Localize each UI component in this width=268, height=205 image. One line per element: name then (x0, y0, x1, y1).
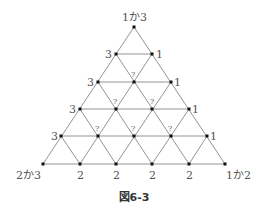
bottom-edge-label: 2 (113, 170, 120, 181)
bottom-left-label: 2か3 (16, 170, 41, 181)
left-edge-label: 3 (69, 104, 76, 115)
bottom-edge-label: 2 (186, 170, 193, 181)
lattice-nodes (42, 26, 227, 166)
right-edge-label: 1 (174, 77, 181, 88)
right-edge-label: 1 (210, 131, 217, 142)
apex-label: 1か3 (122, 12, 147, 23)
interior-unknown-label: ? (168, 125, 172, 133)
interior-unknown-label: ? (131, 71, 135, 79)
triangle-diagram: 1か3 2か3 1か2 3 3 3 3 1 1 1 1 2 2 2 2 ? ? … (0, 0, 268, 205)
left-edge-label: 3 (105, 49, 112, 60)
right-edge-label: 1 (192, 104, 199, 115)
bottom-right-label: 1か2 (226, 170, 251, 181)
interior-unknown-label: ? (150, 98, 154, 106)
left-edge-label: 3 (87, 77, 94, 88)
interior-unknown-label: ? (131, 125, 135, 133)
bottom-edge-label: 2 (77, 170, 84, 181)
figure-caption: 図6-3 (0, 188, 268, 204)
right-edge-label: 1 (156, 49, 163, 60)
interior-unknown-label: ? (113, 98, 117, 106)
left-edge-label: 3 (51, 131, 58, 142)
bottom-edge-label: 2 (149, 170, 156, 181)
lattice-lines (43, 27, 225, 164)
interior-unknown-label: ? (95, 125, 99, 133)
